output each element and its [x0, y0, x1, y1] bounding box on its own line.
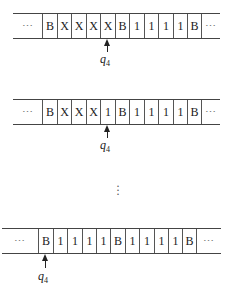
tape-cell: X: [71, 14, 86, 38]
state-label: q4: [100, 52, 110, 68]
tape-2: ⋯ B X X X 1 B 1 1 1 1 B ⋯: [13, 99, 220, 125]
tape-1: ⋯ B X X X X B 1 1 1 1 B ⋯: [13, 13, 220, 39]
tape-cell: B: [187, 100, 202, 124]
tape-cell: 1: [158, 14, 173, 38]
tape-cell: B: [115, 14, 129, 38]
tape-cell: 1: [158, 100, 173, 124]
tape-cell: B: [182, 229, 197, 253]
tape-cell: 1: [173, 14, 187, 38]
tape-cell: B: [42, 100, 57, 124]
tape-cell: 1: [125, 229, 139, 253]
tape-cell: 1: [129, 14, 144, 38]
tape-cell: 1: [144, 14, 158, 38]
tape-right-ellipsis: ⋯: [197, 229, 221, 253]
tape-cell: 1: [67, 229, 82, 253]
tape-cell: 1: [129, 100, 144, 124]
tape-cell: B: [110, 229, 125, 253]
state-label: q4: [38, 269, 48, 285]
tape-3: ⋯ B 1 1 1 1 B 1 1 1 1 B ⋯: [2, 228, 221, 254]
tape-cell: B: [38, 229, 53, 253]
tape-cell: B: [187, 14, 202, 38]
tape-cell: X: [57, 100, 71, 124]
tape-left-ellipsis: ⋯: [13, 100, 42, 124]
state-label: q4: [100, 138, 110, 154]
vertical-ellipsis: ···: [116, 184, 120, 196]
tape-cell: 1: [139, 229, 154, 253]
tape-left-ellipsis: ⋯: [2, 229, 38, 253]
tape-cell: X: [71, 100, 86, 124]
tape-right-ellipsis: ⋯: [202, 100, 220, 124]
tape-right-ellipsis: ⋯: [202, 14, 220, 38]
tape-cell: X: [100, 14, 115, 38]
tape-cell: B: [115, 100, 129, 124]
tape-cell: 1: [100, 100, 115, 124]
tape-cell: 1: [173, 100, 187, 124]
tape-cell: 1: [96, 229, 110, 253]
tape-cell: X: [86, 100, 100, 124]
tape-cell: 1: [82, 229, 96, 253]
tape-cell: X: [86, 14, 100, 38]
tape-cell: 1: [154, 229, 168, 253]
tape-cell: 1: [53, 229, 67, 253]
tape-cell: X: [57, 14, 71, 38]
tape-cell: 1: [144, 100, 158, 124]
tape-cell: B: [42, 14, 57, 38]
tape-left-ellipsis: ⋯: [13, 14, 42, 38]
tape-cell: 1: [168, 229, 182, 253]
